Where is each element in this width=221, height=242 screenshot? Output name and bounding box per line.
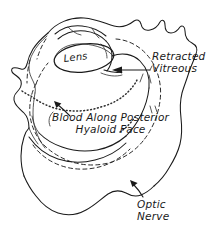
label-optic-nerve: Optic Nerve [137, 199, 169, 223]
label-retracted-vitreous-line1: Retracted [152, 50, 205, 62]
optic-nerve-arrow [130, 180, 143, 197]
label-blood-along-posterior-hyaloid-face: Blood Along Posterior Hyaloid Face [52, 112, 169, 136]
retracted-vitreous-boundary [32, 54, 149, 151]
detached-hyaloid-dashed [27, 39, 161, 165]
label-optic-nerve-line2: Nerve [137, 210, 169, 222]
label-optic-nerve-line1: Optic [137, 198, 166, 210]
label-blood-line1: Blood Along Posterior [52, 111, 169, 123]
cornea-and-anterior-segment [12, 33, 48, 148]
eye-diagram-figure: Lens Retracted Vitreous Blood Along Post… [0, 0, 221, 242]
label-retracted-vitreous: Retracted Vitreous [152, 51, 205, 75]
posterior-hyaloid-face-pair [29, 137, 130, 169]
label-retracted-vitreous-line2: Vitreous [152, 62, 197, 74]
label-blood-line2: Hyaloid Face [52, 124, 169, 136]
